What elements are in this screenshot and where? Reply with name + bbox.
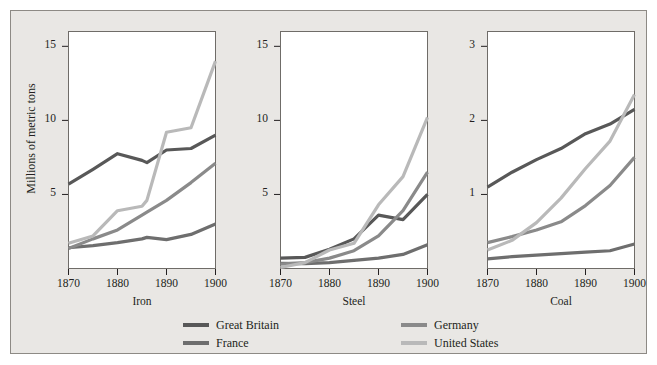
- plot-area-iron: [68, 31, 216, 269]
- y-tick-label: 2: [441, 112, 475, 124]
- x-tick-label: 1900: [194, 277, 238, 289]
- legend-item-great-britain[interactable]: Great Britain: [183, 319, 279, 331]
- legend-label: Germany: [434, 319, 479, 331]
- panel-title-iron: Iron: [68, 295, 216, 307]
- y-tick-label: 10: [22, 112, 56, 124]
- plot-panel-coal: [487, 31, 635, 269]
- x-tick-label: 1870: [259, 277, 303, 289]
- plot-area-coal: [487, 31, 635, 269]
- legend-swatch-icon: [183, 323, 209, 327]
- plot-panels: 510151870188018901900Iron510151870188018…: [11, 11, 648, 311]
- legend-swatch-icon: [183, 341, 209, 345]
- legend-label: United States: [434, 337, 498, 349]
- x-tick-label: 1890: [145, 277, 189, 289]
- plot-area-steel: [280, 31, 428, 269]
- y-tick-label: 15: [234, 38, 268, 50]
- x-tick-label: 1900: [613, 277, 657, 289]
- y-tick-label: 10: [234, 112, 268, 124]
- legend-swatch-icon: [401, 341, 427, 345]
- y-tick-label: 3: [441, 38, 475, 50]
- figure-container: Millions of metric tons 5101518701880189…: [10, 10, 647, 354]
- panel-title-coal: Coal: [487, 295, 635, 307]
- panel-frame: [281, 32, 428, 269]
- y-tick-label: 5: [234, 186, 268, 198]
- y-tick-label: 1: [441, 186, 475, 198]
- legend-label: Great Britain: [216, 319, 279, 331]
- panel-title-steel: Steel: [280, 295, 428, 307]
- legend-swatch-icon: [401, 323, 427, 327]
- plot-panel-iron: [68, 31, 216, 269]
- y-tick-label: 15: [22, 38, 56, 50]
- y-tick-label: 5: [22, 186, 56, 198]
- legend-item-united-states[interactable]: United States: [401, 337, 498, 349]
- x-tick-label: 1880: [96, 277, 140, 289]
- x-tick-label: 1870: [47, 277, 91, 289]
- legend-label: France: [216, 337, 249, 349]
- plot-panel-steel: [280, 31, 428, 269]
- chart-legend: Great BritainGermanyFranceUnited States: [11, 311, 648, 355]
- x-tick-label: 1880: [515, 277, 559, 289]
- x-tick-label: 1900: [406, 277, 450, 289]
- legend-item-france[interactable]: France: [183, 337, 249, 349]
- x-tick-label: 1890: [564, 277, 608, 289]
- legend-item-germany[interactable]: Germany: [401, 319, 479, 331]
- x-tick-label: 1880: [308, 277, 352, 289]
- x-tick-label: 1870: [466, 277, 510, 289]
- x-tick-label: 1890: [357, 277, 401, 289]
